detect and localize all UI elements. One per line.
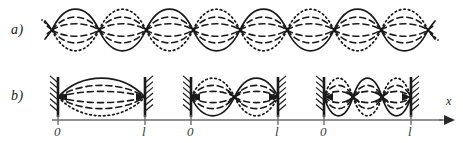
loop-dashed-intermediate bbox=[58, 97, 145, 103]
standing-wave-figure: a) b) 0 l 0 l 0 l x bbox=[0, 0, 463, 143]
loop-dashed-intermediate bbox=[146, 30, 193, 36]
loop-dashed-intermediate bbox=[52, 24, 99, 30]
loop-dashed-intermediate bbox=[99, 30, 146, 36]
x-axis-arrowhead bbox=[444, 115, 455, 125]
loop-dashed-intermediate bbox=[334, 24, 381, 30]
tick-label-length-mode-2: l bbox=[275, 124, 279, 140]
loop-dashed-intermediate bbox=[381, 30, 428, 36]
loop-dashed-intermediate bbox=[58, 91, 145, 97]
tick-label-length-mode-1: l bbox=[142, 124, 146, 140]
tick-label-zero-mode-2: 0 bbox=[187, 124, 194, 140]
panel-label-a: a) bbox=[11, 22, 24, 38]
figure-canvas bbox=[0, 0, 463, 143]
loop-dashed-intermediate bbox=[287, 30, 334, 36]
tick-label-zero-mode-1: 0 bbox=[54, 124, 61, 140]
tick-label-length-mode-3: l bbox=[408, 124, 412, 140]
loop-dashed-intermediate bbox=[287, 24, 334, 30]
loop-dashed-intermediate bbox=[193, 24, 240, 30]
panel-label-b: b) bbox=[11, 88, 24, 104]
loop-dashed-intermediate bbox=[99, 24, 146, 30]
loop-dashed-intermediate bbox=[240, 30, 287, 36]
tick-label-zero-mode-3: 0 bbox=[320, 124, 327, 140]
loop-dashed-intermediate bbox=[52, 30, 99, 36]
loop-dashed-intermediate bbox=[240, 24, 287, 30]
loop-dashed-intermediate bbox=[193, 30, 240, 36]
loop-dashed-intermediate bbox=[146, 24, 193, 30]
loop-dashed-intermediate bbox=[381, 24, 428, 30]
loop-dashed-intermediate bbox=[334, 30, 381, 36]
x-axis-label: x bbox=[446, 94, 451, 109]
